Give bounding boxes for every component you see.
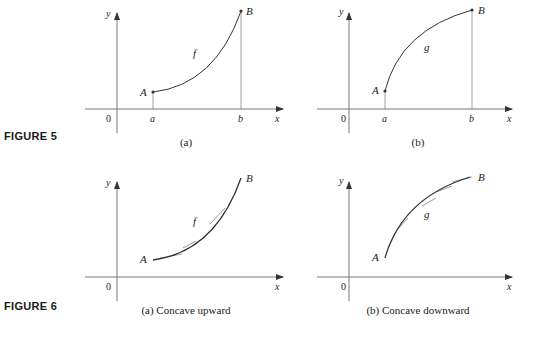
point-b	[239, 9, 242, 12]
x-axis-label: x	[506, 113, 512, 124]
tick-a-label: a	[150, 113, 155, 124]
figure-canvas: y x 0 A B f a b (a) y x 0 A B g a b (b)	[0, 0, 540, 337]
curve-label: g	[424, 41, 430, 53]
point-b-label: B	[478, 171, 485, 183]
origin-label: 0	[106, 113, 111, 124]
x-axis-label: x	[274, 281, 280, 292]
caption: (b)	[412, 136, 425, 149]
curve-label: f	[193, 47, 198, 59]
caption: (b) Concave downward	[366, 304, 470, 317]
point-b	[470, 8, 473, 11]
point-a-label: A	[139, 253, 147, 265]
caption: (a)	[180, 136, 193, 149]
curve-f	[153, 11, 241, 92]
point-a-label: A	[371, 84, 379, 96]
origin-label: 0	[341, 113, 346, 124]
figure-6a-graph: y x 0 A B f (a) Concave upward	[85, 172, 283, 317]
point-b-label: B	[246, 5, 253, 17]
point-b-label: B	[478, 4, 485, 16]
point-a-label: A	[139, 86, 147, 98]
caption: (a) Concave upward	[141, 304, 231, 317]
tick-b-label: b	[469, 113, 474, 124]
point-a	[151, 90, 154, 93]
y-axis-label: y	[338, 6, 344, 17]
tick-a-label: a	[382, 113, 387, 124]
curve-label: g	[424, 208, 430, 220]
curve-f	[153, 178, 241, 260]
origin-label: 0	[106, 281, 111, 292]
x-axis-label: x	[274, 113, 280, 124]
point-a	[383, 89, 386, 92]
y-axis-label: y	[105, 177, 111, 188]
curve-label: f	[193, 215, 198, 227]
point-a-label: A	[371, 251, 379, 263]
x-axis-label: x	[506, 281, 512, 292]
point-b-label: B	[246, 172, 253, 184]
figure-6b-graph: y x 0 A B g (b) Concave downward	[317, 171, 512, 317]
figure-5a-graph: y x 0 A B f a b (a)	[85, 5, 283, 149]
figure-5b-graph: y x 0 A B g a b (b)	[317, 4, 512, 149]
tick-b-label: b	[238, 113, 243, 124]
y-axis-label: y	[105, 8, 111, 19]
y-axis-label: y	[338, 175, 344, 186]
origin-label: 0	[341, 281, 346, 292]
